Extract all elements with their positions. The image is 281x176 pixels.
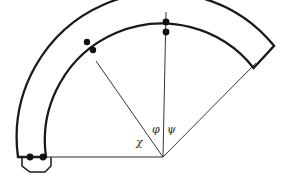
dot-chi-inner	[90, 47, 96, 53]
bottom-left-notch	[22, 157, 51, 172]
radial-line-psi	[163, 63, 256, 157]
dot-phi-outer	[163, 19, 170, 26]
dot-base-right	[40, 154, 47, 161]
angle-label-phi: φ	[152, 123, 160, 136]
angle-label-chi: χ	[135, 136, 144, 149]
dot-chi-outer	[84, 39, 90, 45]
annular-band-outline	[17, 0, 274, 157]
annular-sector-diagram: χ φ ψ	[0, 0, 281, 176]
radial-line-chi	[96, 61, 163, 157]
dot-phi-inner	[163, 29, 170, 36]
dot-base-left	[27, 154, 34, 161]
angle-label-psi: ψ	[167, 123, 176, 136]
figure-root: χ φ ψ	[0, 0, 281, 176]
